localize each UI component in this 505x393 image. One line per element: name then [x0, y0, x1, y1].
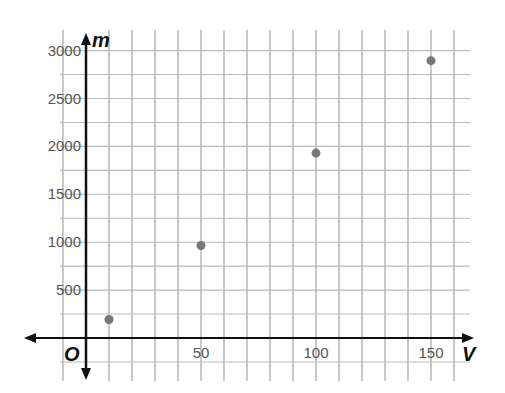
y-tick-label: 2000: [48, 137, 81, 154]
x-axis-label: V: [462, 343, 477, 365]
axes: [24, 33, 474, 380]
grid-lines: [60, 30, 470, 381]
origin-label: O: [64, 343, 80, 365]
y-axis-label: m: [92, 29, 110, 51]
y-tick-label: 2500: [48, 90, 81, 107]
data-point: [105, 315, 114, 324]
x-tick-label: 150: [418, 344, 443, 361]
data-point: [427, 56, 436, 65]
y-tick-label: 500: [56, 281, 81, 298]
x-tick-label: 50: [193, 344, 210, 361]
x-axis-left-arrow-icon: [24, 333, 36, 343]
y-axis-down-arrow-icon: [81, 368, 91, 380]
y-tick-label: 1500: [48, 185, 81, 202]
tick-labels: 5001000150020002500300050100150mVO: [48, 29, 477, 365]
x-axis-right-arrow-icon: [462, 333, 474, 343]
scatter-chart: 5001000150020002500300050100150mVO: [0, 0, 505, 393]
y-axis-up-arrow-icon: [81, 33, 91, 45]
y-tick-label: 3000: [48, 42, 81, 59]
y-tick-label: 1000: [48, 233, 81, 250]
x-tick-label: 100: [303, 344, 328, 361]
data-point: [197, 241, 206, 250]
data-point: [312, 149, 321, 158]
